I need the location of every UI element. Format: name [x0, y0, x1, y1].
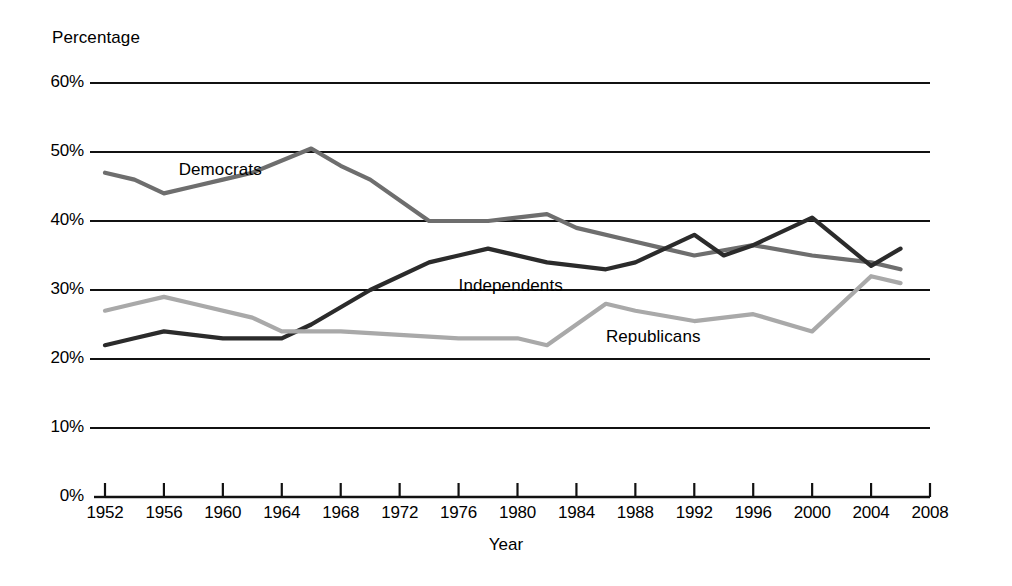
y-tick-label-10: 10%	[22, 417, 84, 437]
y-tick-label-50: 50%	[22, 141, 84, 161]
x-tick-label-1976: 1976	[427, 503, 491, 523]
x-axis-title: Year	[0, 535, 1012, 555]
x-tick-label-1960: 1960	[191, 503, 255, 523]
y-tick-label-60: 60%	[22, 72, 84, 92]
x-tick-label-1956: 1956	[132, 503, 196, 523]
x-tick-label-1980: 1980	[486, 503, 550, 523]
x-tick-label-1996: 1996	[721, 503, 785, 523]
x-tick-label-1984: 1984	[544, 503, 608, 523]
x-tick-label-2000: 2000	[780, 503, 844, 523]
x-tick-label-1964: 1964	[250, 503, 314, 523]
x-tick-label-1952: 1952	[73, 503, 137, 523]
x-tick-label-2004: 2004	[839, 503, 903, 523]
party-identification-chart: Percentage 0%10%20%30%40%50%60% 19521956…	[0, 0, 1012, 586]
x-axis-ticks	[105, 483, 930, 497]
y-tick-label-30: 30%	[22, 279, 84, 299]
x-tick-label-2008: 2008	[898, 503, 962, 523]
x-tick-label-1968: 1968	[309, 503, 373, 523]
series-label-republicans: Republicans	[606, 327, 701, 347]
y-tick-label-20: 20%	[22, 348, 84, 368]
x-tick-label-1972: 1972	[368, 503, 432, 523]
y-tick-label-40: 40%	[22, 210, 84, 230]
x-tick-label-1992: 1992	[662, 503, 726, 523]
x-tick-label-1988: 1988	[603, 503, 667, 523]
series-label-democrats: Democrats	[179, 160, 262, 180]
series-label-independents: Independents	[459, 276, 563, 296]
